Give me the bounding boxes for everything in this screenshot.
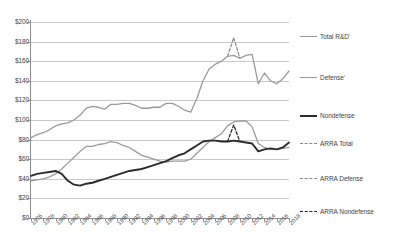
series-line [31,121,289,181]
legend-label: ARRA Total [320,140,353,147]
arra-series-line [228,125,240,142]
legend-label: Defense' [320,74,345,81]
legend-item[interactable]: Nondefense [300,110,355,120]
series-lines [31,22,289,218]
legend-line-icon [300,207,317,215]
legend-label: Nondefense [320,112,355,119]
chart-legend: Total R&D'Defense'NondefenseARRA TotalAR… [300,0,406,248]
legend-item[interactable]: Total R&D' [300,31,350,41]
legend-label: ARRA Defense [320,175,363,182]
legend-label: Total R&D' [320,33,350,40]
chart-container: $200$180$160$140$120$100$80$60$40$20$0 1… [0,0,406,248]
legend-line-icon [300,111,317,119]
series-line [31,141,289,186]
legend-item[interactable]: Defense' [300,72,345,82]
legend-line-icon [300,32,317,40]
legend-line-icon [300,174,317,182]
legend-label: ARRA Nondefense [320,208,374,215]
legend-line-icon [300,73,317,81]
legend-item[interactable]: ARRA Defense [300,173,363,183]
legend-item[interactable]: ARRA Nondefense [300,206,374,216]
legend-line-icon [300,139,317,147]
legend-item[interactable]: ARRA Total [300,138,353,148]
plot-area [31,22,289,218]
y-axis-labels: $200$180$160$140$120$100$80$60$40$20$0 [0,0,29,248]
